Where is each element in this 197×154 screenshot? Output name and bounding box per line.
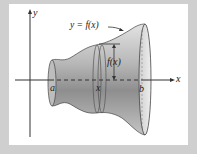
a-label: a <box>50 83 55 93</box>
x-axis-label: x <box>176 74 180 84</box>
radius-label: f(x) <box>107 57 121 67</box>
y-axis <box>28 9 32 137</box>
x-point-label: x <box>96 83 100 93</box>
curve-label: y = f(x) <box>70 21 99 31</box>
y-axis-label: y <box>33 8 37 18</box>
b-label: b <box>139 84 144 94</box>
